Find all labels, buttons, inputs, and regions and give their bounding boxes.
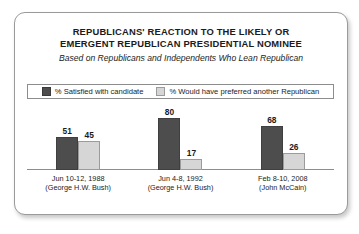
bar-groups: 51 45 Jun 10-12, 1988 (George H.W. Bush) <box>27 105 334 200</box>
x-axis-label-date: Feb 8-10, 2008 <box>226 174 340 184</box>
bar-wrapper: 51 <box>56 126 78 171</box>
bar-wrapper: 45 <box>78 130 100 171</box>
bar-group-bars: 51 45 <box>27 105 129 170</box>
bar-satisfied <box>261 126 283 170</box>
bar-preferred-another <box>283 153 305 170</box>
legend-item-satisfied: % Satisfied with candidate <box>42 87 144 96</box>
bar-group-bars: 68 26 <box>232 105 334 170</box>
bar-value-label: 80 <box>165 107 174 117</box>
bar-group: 80 17 Jun 4-8, 1992 (George H.W. Bush) <box>129 105 231 200</box>
chart-legend: % Satisfied with candidate % Would have … <box>27 84 334 99</box>
x-axis-group-label: Feb 8-10, 2008 (John McCain) <box>226 174 340 193</box>
chart-card: REPUBLICANS' REACTION TO THE LIKELY OR E… <box>14 12 348 215</box>
bar-satisfied <box>158 118 180 170</box>
legend-swatch-dark-icon <box>42 87 51 96</box>
bar-preferred-another <box>180 159 202 170</box>
legend-label-satisfied: % Satisfied with candidate <box>55 87 144 96</box>
plot-area: 51 45 Jun 10-12, 1988 (George H.W. Bush) <box>27 105 334 200</box>
bar-group: 51 45 Jun 10-12, 1988 (George H.W. Bush) <box>27 105 129 200</box>
x-axis-label-candidate: (John McCain) <box>226 183 340 193</box>
chart-subtitle: Based on Republicans and Independents Wh… <box>15 53 347 64</box>
x-axis-label-candidate: (George H.W. Bush) <box>123 183 237 193</box>
x-axis-label-candidate: (George H.W. Bush) <box>21 183 135 193</box>
bar-wrapper: 17 <box>180 148 202 171</box>
bar-value-label: 45 <box>84 130 93 140</box>
legend-item-preferred-another: % Would have preferred another Republica… <box>156 87 319 96</box>
bar-satisfied <box>56 137 78 170</box>
bar-value-label: 51 <box>62 126 71 136</box>
bar-wrapper: 26 <box>283 142 305 171</box>
page-title-line-1: REPUBLICANS' REACTION TO THE LIKELY OR <box>15 26 347 38</box>
screenshot-root: REPUBLICANS' REACTION TO THE LIKELY OR E… <box>0 0 359 234</box>
bar-group: 68 26 Feb 8-10, 2008 (John McCain) <box>232 105 334 200</box>
bar-value-label: 68 <box>267 115 276 125</box>
bar-wrapper: 68 <box>261 115 283 171</box>
x-axis-label-date: Jun 4-8, 1992 <box>123 174 237 184</box>
legend-label-preferred-another: % Would have preferred another Republica… <box>169 87 319 96</box>
page-title-line-2: EMERGENT REPUBLICAN PRESIDENTIAL NOMINEE <box>15 38 347 50</box>
x-axis-group-label: Jun 4-8, 1992 (George H.W. Bush) <box>123 174 237 193</box>
legend-swatch-light-icon <box>156 87 165 96</box>
bar-value-label: 26 <box>289 142 298 152</box>
bar-value-label: 17 <box>187 148 196 158</box>
x-axis-label-date: Jun 10-12, 1988 <box>21 174 135 184</box>
bar-preferred-another <box>78 141 100 170</box>
title-block: REPUBLICANS' REACTION TO THE LIKELY OR E… <box>15 26 347 64</box>
bar-wrapper: 80 <box>158 107 180 171</box>
bar-group-bars: 80 17 <box>129 105 231 170</box>
x-axis-group-label: Jun 10-12, 1988 (George H.W. Bush) <box>21 174 135 193</box>
